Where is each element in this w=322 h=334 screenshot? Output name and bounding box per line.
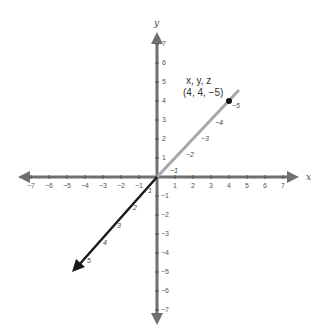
svg-text:3: 3 bbox=[162, 116, 166, 123]
svg-text:2: 2 bbox=[132, 204, 137, 211]
svg-text:−4: −4 bbox=[215, 119, 223, 126]
svg-text:−4: −4 bbox=[161, 249, 169, 256]
svg-text:4: 4 bbox=[162, 97, 166, 104]
svg-text:1: 1 bbox=[148, 187, 152, 194]
svg-text:−5: −5 bbox=[161, 268, 169, 275]
svg-text:5: 5 bbox=[87, 257, 91, 264]
coordinate-diagram: −7 −6 −5 −4 −3 −2 −1 1 2 3 4 5 6 7 x 1 2… bbox=[0, 0, 322, 334]
svg-text:7: 7 bbox=[281, 182, 285, 189]
svg-text:4: 4 bbox=[103, 239, 107, 246]
svg-text:4: 4 bbox=[227, 182, 231, 189]
svg-text:−6: −6 bbox=[161, 287, 169, 294]
plotted-point bbox=[226, 98, 232, 104]
svg-text:5: 5 bbox=[245, 182, 249, 189]
svg-text:−3: −3 bbox=[99, 182, 107, 189]
svg-text:−1: −1 bbox=[135, 182, 143, 189]
svg-text:6: 6 bbox=[162, 59, 166, 66]
svg-text:3: 3 bbox=[209, 182, 213, 189]
svg-text:−3: −3 bbox=[161, 230, 169, 237]
svg-text:−7: −7 bbox=[161, 306, 169, 313]
svg-text:1: 1 bbox=[162, 154, 166, 161]
svg-text:−4: −4 bbox=[81, 182, 89, 189]
svg-text:5: 5 bbox=[162, 78, 166, 85]
point-header-label: x, y, z bbox=[186, 75, 211, 86]
svg-text:−6: −6 bbox=[45, 182, 53, 189]
svg-text:−2: −2 bbox=[186, 151, 194, 158]
svg-text:−2: −2 bbox=[161, 211, 169, 218]
svg-text:−5: −5 bbox=[232, 102, 240, 109]
z-tick-labels: 1 2 3 4 5 −1 −2 −3 −4 −5 bbox=[87, 102, 240, 264]
svg-text:2: 2 bbox=[162, 135, 166, 142]
y-axis-down-arrow-icon bbox=[151, 313, 163, 325]
z-axis-negative bbox=[157, 90, 239, 177]
svg-text:−1: −1 bbox=[161, 192, 169, 199]
svg-text:−5: −5 bbox=[63, 182, 71, 189]
svg-text:6: 6 bbox=[263, 182, 267, 189]
svg-text:2: 2 bbox=[191, 182, 195, 189]
x-axis-right-arrow-icon bbox=[287, 171, 299, 183]
svg-text:3: 3 bbox=[117, 222, 121, 229]
svg-text:−7: −7 bbox=[27, 182, 35, 189]
svg-text:1: 1 bbox=[173, 182, 177, 189]
svg-text:−1: −1 bbox=[170, 167, 178, 174]
point-coords-label: (4, 4, −5) bbox=[183, 87, 223, 98]
svg-text:7: 7 bbox=[162, 40, 166, 47]
svg-text:−2: −2 bbox=[117, 182, 125, 189]
svg-text:−3: −3 bbox=[201, 135, 209, 142]
x-axis-label: x bbox=[306, 172, 311, 182]
y-axis-label: y bbox=[153, 18, 160, 28]
